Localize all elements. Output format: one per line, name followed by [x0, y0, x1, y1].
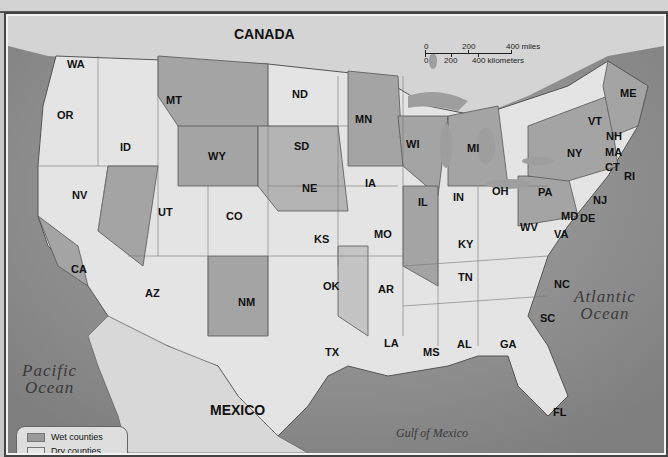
state-WI: WI [406, 138, 419, 150]
legend-dry: Dry counties [27, 446, 101, 455]
state-MI: MI [467, 142, 479, 154]
scale-tick [468, 50, 469, 54]
state-WV: WV [520, 221, 538, 233]
state-DE: DE [580, 212, 595, 224]
map-frame: CANADA MEXICO Atlantic Ocean Pacific Oce… [0, 0, 668, 457]
scale-tick [511, 50, 512, 54]
state-CA: CA [71, 263, 87, 275]
state-NM: NM [238, 296, 255, 308]
state-SD: SD [294, 140, 309, 152]
state-NY: NY [567, 147, 582, 159]
atlantic-line2: Ocean [574, 305, 636, 322]
state-LA: LA [384, 337, 399, 349]
state-RI: RI [624, 170, 635, 182]
legend-label-dry: Dry counties [51, 446, 101, 455]
top-strip [0, 0, 668, 13]
state-SC: SC [540, 312, 555, 324]
label-canada: CANADA [234, 26, 295, 42]
legend-swatch-wet [27, 433, 45, 442]
state-IN: IN [453, 191, 464, 203]
state-NH: NH [606, 130, 622, 142]
state-OH: OH [492, 185, 509, 197]
state-MS: MS [423, 346, 440, 358]
label-pacific-ocean: Pacific Ocean [22, 362, 77, 396]
state-NV: NV [72, 189, 87, 201]
legend-label-wet: Wet counties [51, 432, 103, 442]
state-WY: WY [208, 150, 226, 162]
state-TX: TX [325, 346, 339, 358]
state-CO: CO [226, 210, 243, 222]
label-mexico: MEXICO [210, 402, 265, 418]
pacific-line2: Ocean [22, 379, 77, 396]
scale-km-0: 0 [424, 56, 428, 65]
scale-km-200: 200 [444, 56, 457, 65]
state-MD: MD [561, 210, 578, 222]
state-NE: NE [302, 182, 317, 194]
state-NC: NC [554, 278, 570, 290]
state-AZ: AZ [145, 287, 160, 299]
state-ND: ND [292, 88, 308, 100]
state-MT: MT [166, 94, 182, 106]
label-atlantic-ocean: Atlantic Ocean [574, 288, 636, 322]
legend-wet: Wet counties [27, 432, 103, 442]
us-wet-dry-map: CANADA MEXICO Atlantic Ocean Pacific Oce… [6, 14, 666, 455]
state-MA: MA [605, 146, 622, 158]
state-KY: KY [458, 238, 473, 250]
state-WA: WA [67, 58, 85, 70]
scale-km-400: 400 kilometers [472, 56, 524, 65]
label-gulf-of-mexico: Gulf of Mexico [396, 426, 468, 441]
pacific-line1: Pacific [22, 362, 77, 379]
legend-swatch-dry [27, 447, 45, 456]
state-MN: MN [355, 113, 372, 125]
state-KS: KS [314, 233, 329, 245]
map-legend: Wet counties Dry counties [16, 426, 128, 455]
state-AR: AR [378, 283, 394, 295]
scale-bar: 0 200 400 miles 0 200 400 kilometers [422, 42, 572, 82]
state-IL: IL [418, 196, 428, 208]
state-OR: OR [57, 109, 74, 121]
state-MO: MO [374, 228, 392, 240]
state-NJ: NJ [593, 194, 607, 206]
state-ID: ID [120, 141, 131, 153]
state-PA: PA [538, 186, 552, 198]
state-OK: OK [323, 280, 340, 292]
state-VA: VA [554, 228, 568, 240]
state-CT: CT [605, 161, 620, 173]
state-ME: ME [620, 87, 637, 99]
atlantic-line1: Atlantic [574, 288, 636, 305]
state-UT: UT [158, 206, 173, 218]
state-AL: AL [457, 338, 472, 350]
state-IA: IA [365, 177, 376, 189]
state-FL: FL [553, 406, 566, 418]
state-GA: GA [500, 338, 517, 350]
state-VT: VT [588, 115, 602, 127]
state-TN: TN [458, 271, 473, 283]
